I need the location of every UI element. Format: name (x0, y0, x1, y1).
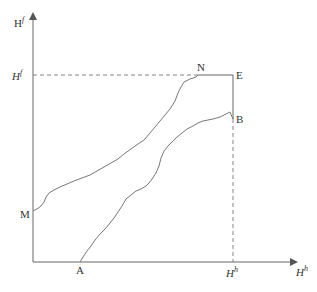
point-label-b: B (236, 113, 243, 125)
point-label-m: M (20, 208, 30, 220)
point-label-e: E (236, 69, 243, 81)
box-diagram: Hf Hh Hf Hh M N E B A (0, 0, 317, 292)
y-axis-label: Hf (14, 15, 26, 29)
x-axis-label: Hh (295, 264, 308, 278)
curve-m-n (33, 75, 198, 211)
curve-a-b (80, 112, 233, 262)
y-tick-label-hf: Hf (11, 68, 24, 82)
point-label-a: A (76, 264, 84, 276)
x-tick-label-hh: Hh (225, 265, 238, 279)
point-label-n: N (197, 61, 205, 73)
